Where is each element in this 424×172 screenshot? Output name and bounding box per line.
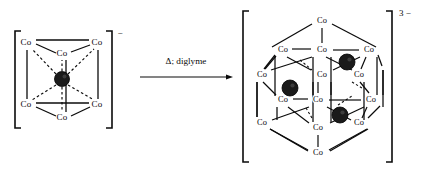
ledge-farleft-to-lowleft [263,82,276,95]
atom-label-co: Co [317,70,327,79]
atom-label-co: Co [20,37,31,47]
reaction-condition-label: Δ; diglyme [166,56,207,66]
atom-label-co: Co [317,45,327,54]
atom-label-co: Co [354,118,364,127]
atom-label-co: Co [91,37,102,47]
product-charge-label: 3 − [399,8,411,18]
atom-label-co: Co [20,99,31,109]
product-lower-lattice [263,82,369,150]
edge-top-left-back [36,44,56,53]
atom-label-co: Co [278,95,288,104]
interstitial-upper-right-highlight [347,57,351,61]
atom-label-co: Co [56,112,67,122]
reactant-right-bracket [106,31,112,128]
product-cluster: Co Co Co Co Co Co Co Co Co Co Co Co Co C… [243,8,411,162]
edge-top-back-right [71,45,90,52]
iedge-upperleft-to-farleft [265,56,276,69]
interstitial-left-atom [282,80,298,96]
reaction-arrow-group: Δ; diglyme [140,56,233,79]
centre-atom [55,72,70,87]
interstitial-lower-atom [332,107,348,123]
atom-label-co: Co [313,95,323,104]
dash-centre-top-left [32,49,56,74]
atom-label-co: Co [366,95,376,104]
dash-centre-bot-left [32,85,56,100]
edge-baseright-to-apexbottom [330,129,368,151]
edge-apex-to-upper-left [272,24,312,47]
product-left-bracket [243,11,249,162]
atom-label-co: Co [278,45,288,54]
atom-label-co: Co [317,16,327,25]
atom-label-co: Co [257,70,267,79]
ledge-baseleft-to-apex [270,129,308,150]
atom-label-co: Co [313,148,323,157]
interstitial-lower-highlight [340,110,344,114]
reactant-cluster: Co Co Co Co Co Co − [15,28,123,128]
interstitial-left-highlight [290,83,294,87]
edge-lowright-to-baseright [368,106,380,118]
reaction-arrow-head [226,74,233,79]
atom-label-co: Co [313,123,323,132]
atom-label-co: Co [257,118,267,127]
atom-label-co: Co [56,48,67,58]
reaction-scheme: Co Co Co Co Co Co − Δ; diglyme [0,0,424,172]
hedge-c [306,108,312,118]
edge-bot-front-right [71,107,90,116]
edge-apex-to-upper-right [332,24,376,47]
reactant-charge-label: − [117,28,122,38]
edge-upperleft-to-farleft [264,55,275,69]
dash-centre-bot-right [68,85,94,100]
ledge-baseright-to-apex [329,129,367,150]
interstitial-upper-right-atom [339,54,355,70]
edge-upperright-to-right [378,55,382,66]
atom-label-co: Co [364,45,374,54]
product-right-bracket [386,11,392,162]
atom-label-co: Co [354,70,364,79]
centre-atom-highlight [63,75,67,79]
dash-centre-top-right [68,49,94,74]
atom-label-co: Co [91,99,102,109]
iedge-upperright-to-midright [361,57,366,69]
edge-bot-left-front [36,107,56,116]
ledge-lowleft-to-basemid [288,107,309,123]
